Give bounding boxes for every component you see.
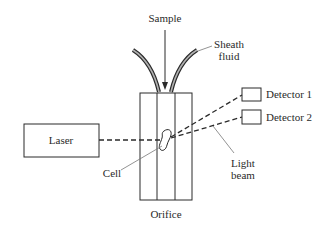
sample-arrow-head — [162, 82, 168, 90]
sheath-label-line2: fluid — [219, 50, 240, 62]
cell — [159, 130, 171, 151]
light-beam-label-line2: beam — [231, 169, 255, 181]
detector-2-box — [242, 110, 261, 124]
detector-2-label: Detector 2 — [266, 111, 312, 123]
cell-label: Cell — [103, 167, 121, 179]
sheath-tube-left — [133, 50, 159, 92]
orifice-label: Orifice — [150, 208, 181, 220]
sample-label: Sample — [149, 12, 182, 24]
light-beam-label-line1: Light — [231, 157, 255, 169]
light-beam-to-detector-2 — [171, 117, 242, 138]
light-beam-leader-line — [213, 126, 234, 153]
detector-1-box — [242, 88, 261, 101]
sheath-label-line1: Sheath — [214, 38, 244, 50]
sheath-tube-right — [171, 50, 197, 92]
sheath-leader-line — [198, 46, 212, 51]
light-beam-to-detector-1 — [171, 95, 242, 137]
cell-leader-line — [121, 146, 162, 170]
detector-1-label: Detector 1 — [266, 88, 312, 100]
flow-cytometer-diagram: Sample Sheath fluid Orifice Laser Cell D… — [0, 0, 326, 227]
laser-label: Laser — [49, 134, 74, 146]
